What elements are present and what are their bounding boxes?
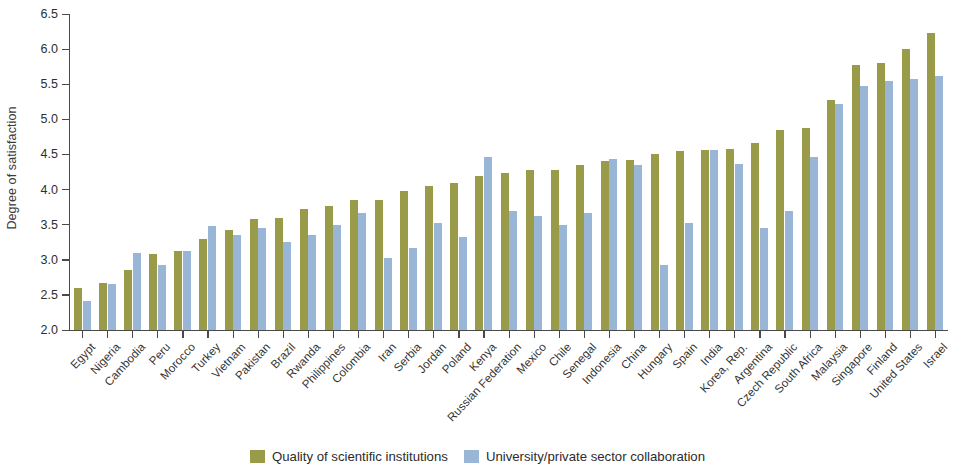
x-axis-tick bbox=[810, 331, 811, 338]
x-axis-tick bbox=[634, 331, 635, 338]
bar-quality-of-scientific-institutions bbox=[350, 200, 358, 330]
legend-item: University/private sector collaboration bbox=[464, 449, 705, 464]
y-axis-tick bbox=[62, 330, 70, 331]
bar-quality-of-scientific-institutions bbox=[601, 161, 609, 330]
bar-university-private-sector-collaboration bbox=[634, 165, 642, 330]
bar-university-private-sector-collaboration bbox=[409, 248, 417, 330]
y-axis-tick bbox=[62, 189, 70, 190]
bar-quality-of-scientific-institutions bbox=[626, 160, 634, 330]
bar-quality-of-scientific-institutions bbox=[325, 206, 333, 330]
x-axis-tick bbox=[207, 331, 208, 338]
legend-label: University/private sector collaboration bbox=[486, 449, 705, 464]
bar-quality-of-scientific-institutions bbox=[701, 150, 709, 330]
bar-university-private-sector-collaboration bbox=[283, 242, 291, 330]
bar-university-private-sector-collaboration bbox=[935, 76, 943, 330]
legend-swatch bbox=[464, 450, 479, 463]
y-axis-tick-label: 2.5 bbox=[22, 288, 58, 302]
x-axis-tick bbox=[784, 331, 785, 338]
x-axis-tick bbox=[709, 331, 710, 338]
bar-quality-of-scientific-institutions bbox=[149, 254, 157, 330]
bar-university-private-sector-collaboration bbox=[559, 225, 567, 330]
bar-quality-of-scientific-institutions bbox=[400, 191, 408, 330]
bar-university-private-sector-collaboration bbox=[584, 213, 592, 330]
x-axis-tick bbox=[233, 331, 234, 338]
x-axis-tick-label: Israel bbox=[921, 340, 950, 370]
legend-label: Quality of scientific institutions bbox=[272, 449, 448, 464]
bar-university-private-sector-collaboration bbox=[258, 228, 266, 330]
x-axis-tick bbox=[458, 331, 459, 338]
bar-university-private-sector-collaboration bbox=[83, 301, 91, 330]
bar-quality-of-scientific-institutions bbox=[676, 151, 684, 330]
bar-quality-of-scientific-institutions bbox=[802, 128, 810, 330]
bar-quality-of-scientific-institutions bbox=[651, 154, 659, 330]
bar-quality-of-scientific-institutions bbox=[927, 33, 935, 330]
x-axis-tick bbox=[258, 331, 259, 338]
bar-university-private-sector-collaboration bbox=[384, 258, 392, 330]
bar-quality-of-scientific-institutions bbox=[852, 65, 860, 330]
y-axis-tick bbox=[62, 49, 70, 50]
x-axis-tick bbox=[157, 331, 158, 338]
y-axis-tick-label: 2.0 bbox=[22, 323, 58, 337]
x-axis-tick bbox=[483, 331, 484, 338]
x-axis-tick bbox=[132, 331, 133, 338]
bar-university-private-sector-collaboration bbox=[785, 211, 793, 330]
bar-quality-of-scientific-institutions bbox=[526, 170, 534, 330]
x-axis-tick bbox=[759, 331, 760, 338]
bar-university-private-sector-collaboration bbox=[434, 223, 442, 330]
x-axis-tick bbox=[935, 331, 936, 338]
x-axis-tick bbox=[509, 331, 510, 338]
bar-university-private-sector-collaboration bbox=[760, 228, 768, 330]
x-axis-tick bbox=[433, 331, 434, 338]
bar-university-private-sector-collaboration bbox=[108, 284, 116, 330]
x-axis-tick bbox=[885, 331, 886, 338]
x-axis-tick bbox=[860, 331, 861, 338]
bar-university-private-sector-collaboration bbox=[158, 265, 166, 330]
bar-university-private-sector-collaboration bbox=[609, 159, 617, 330]
x-axis-tick-label: Spain bbox=[669, 340, 699, 371]
bar-quality-of-scientific-institutions bbox=[576, 165, 584, 330]
legend-swatch bbox=[250, 450, 265, 463]
y-axis-tick-label: 5.0 bbox=[22, 112, 58, 126]
bar-university-private-sector-collaboration bbox=[810, 157, 818, 330]
x-axis-tick bbox=[534, 331, 535, 338]
x-axis-tick bbox=[82, 331, 83, 338]
x-axis-tick bbox=[308, 331, 309, 338]
bar-university-private-sector-collaboration bbox=[685, 223, 693, 330]
legend-item: Quality of scientific institutions bbox=[250, 449, 448, 464]
bar-quality-of-scientific-institutions bbox=[501, 173, 509, 330]
x-axis-tick bbox=[408, 331, 409, 338]
y-axis-tick-labels: 2.02.53.03.54.04.55.05.56.06.5 bbox=[16, 0, 58, 471]
y-axis-tick-label: 3.5 bbox=[22, 218, 58, 232]
x-axis-tick bbox=[734, 331, 735, 338]
x-axis-tick bbox=[182, 331, 183, 338]
bar-quality-of-scientific-institutions bbox=[450, 183, 458, 330]
x-axis-tick bbox=[559, 331, 560, 338]
y-axis-tick-label: 6.0 bbox=[22, 42, 58, 56]
bar-quality-of-scientific-institutions bbox=[827, 100, 835, 330]
bar-university-private-sector-collaboration bbox=[710, 150, 718, 330]
x-axis-tick bbox=[283, 331, 284, 338]
plot-area bbox=[70, 14, 948, 330]
y-axis-tick-label: 5.5 bbox=[22, 77, 58, 91]
x-axis-tick bbox=[584, 331, 585, 338]
bar-university-private-sector-collaboration bbox=[660, 265, 668, 330]
x-axis-tick bbox=[835, 331, 836, 338]
x-axis-tick bbox=[383, 331, 384, 338]
bar-university-private-sector-collaboration bbox=[885, 81, 893, 330]
bar-university-private-sector-collaboration bbox=[534, 216, 542, 330]
bar-university-private-sector-collaboration bbox=[860, 86, 868, 330]
bar-university-private-sector-collaboration bbox=[133, 253, 141, 330]
x-axis-tick bbox=[659, 331, 660, 338]
bar-quality-of-scientific-institutions bbox=[726, 149, 734, 330]
bar-university-private-sector-collaboration bbox=[509, 211, 517, 330]
bar-quality-of-scientific-institutions bbox=[902, 49, 910, 330]
bar-quality-of-scientific-institutions bbox=[551, 170, 559, 330]
y-axis-tick bbox=[62, 84, 70, 85]
bar-quality-of-scientific-institutions bbox=[375, 200, 383, 330]
bar-quality-of-scientific-institutions bbox=[174, 251, 182, 330]
bar-quality-of-scientific-institutions bbox=[877, 63, 885, 330]
y-axis-tick bbox=[62, 294, 70, 295]
bar-chart: Degree of satisfaction 2.02.53.03.54.04.… bbox=[0, 0, 955, 471]
y-axis-tick bbox=[62, 154, 70, 155]
bar-university-private-sector-collaboration bbox=[208, 226, 216, 330]
